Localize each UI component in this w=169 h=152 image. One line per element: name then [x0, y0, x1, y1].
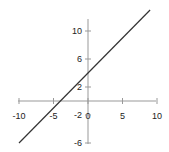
x-tick-label: 0	[85, 111, 90, 121]
x-tick-label: -10	[12, 111, 25, 121]
y-tick-label: -2	[74, 110, 82, 120]
x-tick-label: 10	[152, 111, 162, 121]
y-tick-label: 6	[77, 54, 82, 64]
y-tick-label: -6	[74, 138, 82, 148]
x-tick-label: -5	[49, 111, 57, 121]
y-tick-label: 10	[72, 26, 82, 36]
data-series	[19, 10, 150, 143]
line-chart: -10-50510 -6-22610	[0, 0, 169, 152]
series-line	[19, 10, 150, 143]
x-tick-label: 5	[120, 111, 125, 121]
